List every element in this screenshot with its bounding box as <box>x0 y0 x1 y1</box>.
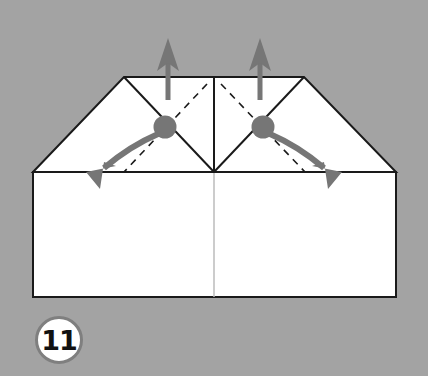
step-number-badge: 11 <box>35 316 83 364</box>
step-number: 11 <box>41 325 77 356</box>
